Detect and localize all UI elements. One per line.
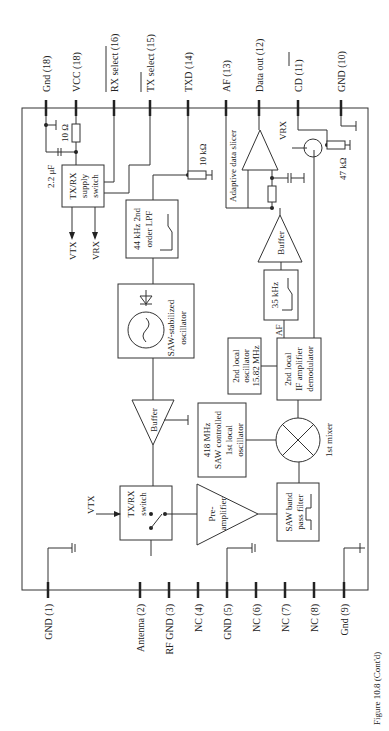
figure-caption: Figure 10.8 (Cont'd) [372,652,382,725]
final-layer: Figure 10.8 (Cont'd) [0,0,389,731]
